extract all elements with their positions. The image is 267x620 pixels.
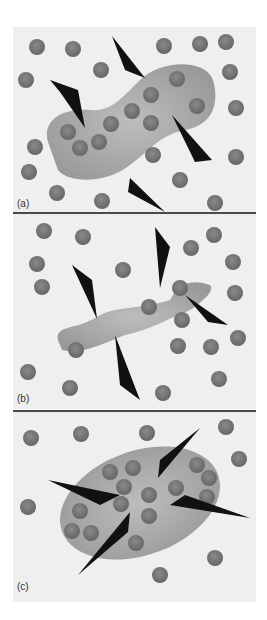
label-b: (b): [17, 393, 29, 404]
label-c: (c): [17, 581, 29, 592]
label-a: (a): [17, 198, 29, 209]
diagram-graphics: (a) (b) (c): [0, 0, 267, 620]
blob-dumbbell: [47, 64, 215, 179]
